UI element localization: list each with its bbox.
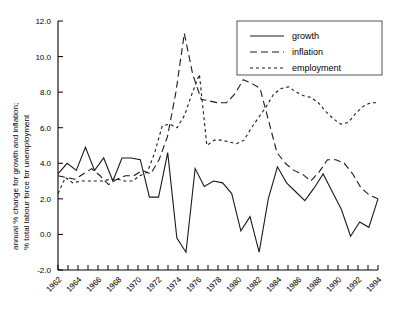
y-tick-label: 12.0 — [35, 17, 51, 26]
y-tick-label: 6.0 — [40, 124, 52, 133]
y-tick-label: -2.0 — [37, 266, 51, 275]
y-tick-label: 2.0 — [40, 195, 52, 204]
y-tick-label: 8.0 — [40, 88, 52, 97]
legend-label-growth: growth — [292, 31, 319, 41]
legend-label-inflation: inflation — [292, 47, 323, 57]
y-axis-ticks: 12.010.08.06.04.02.00.0-2.0 — [35, 17, 63, 275]
x-tick-label: 1978 — [204, 275, 223, 294]
x-tick-label: 1966 — [84, 275, 103, 294]
x-axis-ticks: 1962196419661968197019721974197619781980… — [44, 265, 383, 294]
x-tick-label: 1970 — [124, 275, 143, 294]
y-axis-label-line2: % total labour force for unemployment — [22, 114, 31, 250]
x-tick-label: 1980 — [224, 275, 243, 294]
x-tick-label: 1972 — [144, 275, 163, 294]
chart-legend: growthinflationemployment — [237, 21, 382, 75]
x-tick-label: 1984 — [264, 275, 283, 294]
series-growth — [58, 147, 378, 252]
y-axis-label: annual % change for growth and inflation… — [11, 103, 31, 250]
x-tick-label: 1988 — [304, 275, 323, 294]
x-tick-label: 1976 — [184, 275, 203, 294]
y-axis-label-line1: annual % change for growth and inflation… — [11, 103, 20, 250]
legend-label-employment: employment — [292, 63, 342, 73]
x-tick-label: 1982 — [244, 275, 263, 294]
x-tick-label: 1962 — [44, 275, 63, 294]
x-tick-label: 1964 — [64, 275, 83, 294]
x-tick-label: 1986 — [284, 275, 303, 294]
chart-container: annual % change for growth and inflation… — [0, 0, 398, 313]
x-tick-label: 1990 — [324, 275, 343, 294]
x-tick-label: 1974 — [164, 275, 183, 294]
y-tick-label: 0.0 — [40, 230, 52, 239]
line-chart: annual % change for growth and inflation… — [0, 0, 398, 313]
x-tick-label: 1992 — [344, 275, 363, 294]
series-employment — [58, 74, 378, 193]
y-tick-label: 4.0 — [40, 159, 52, 168]
x-tick-label: 1968 — [104, 275, 123, 294]
x-tick-label: 1994 — [364, 275, 383, 294]
y-tick-label: 10.0 — [35, 53, 51, 62]
